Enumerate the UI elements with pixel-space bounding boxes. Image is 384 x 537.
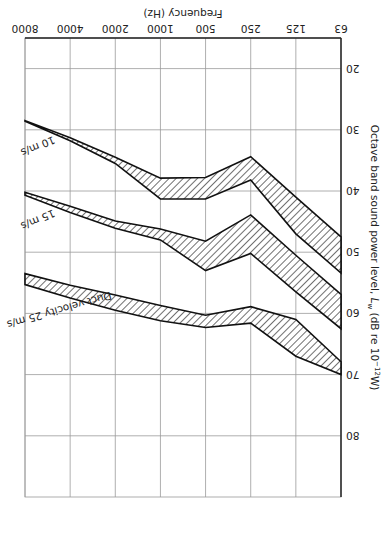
band-label: Duct velocity 25 m/s	[6, 290, 113, 331]
x-axis: 631252505001000200040008000Frequency (Hz…	[12, 8, 348, 35]
y-axis: 20304050607080Octave band sound power le…	[346, 63, 381, 442]
y-tick-label: 60	[346, 307, 359, 319]
x-tick-label: 500	[196, 23, 216, 35]
y-tick-label: 80	[346, 430, 359, 442]
x-tick-label: 63	[334, 23, 347, 35]
y-axis-title: Octave band sound power level, Lw (dB re…	[366, 125, 381, 391]
x-tick-label: 2000	[102, 23, 129, 35]
x-tick-label: 8000	[12, 23, 39, 35]
plot-area: 10 m/s15 m/sDuct velocity 25 m/s	[6, 38, 341, 497]
x-tick-label: 4000	[57, 23, 84, 35]
x-tick-label: 1000	[147, 23, 174, 35]
y-tick-label: 20	[346, 63, 359, 75]
x-axis-title: Frequency (Hz)	[143, 8, 222, 20]
x-tick-label: 250	[241, 23, 261, 35]
y-tick-label: 70	[346, 369, 359, 381]
y-tick-label: 40	[346, 185, 359, 197]
x-tick-label: 125	[286, 23, 306, 35]
sound-power-chart: 10 m/s15 m/sDuct velocity 25 m/s 6312525…	[0, 0, 384, 537]
y-tick-label: 50	[346, 246, 359, 258]
y-tick-label: 30	[346, 124, 359, 136]
